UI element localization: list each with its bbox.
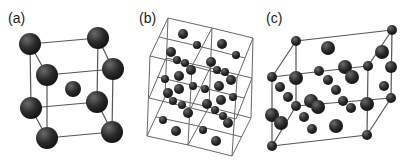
panel-a: (a) xyxy=(0,0,135,167)
panel-c: (c) xyxy=(260,0,410,167)
bcc-unit-cell-diagram xyxy=(0,0,135,167)
supercell-lattice-diagram xyxy=(135,0,260,167)
elongated-cell-diagram xyxy=(260,0,410,167)
panel-b: (b) xyxy=(135,0,260,167)
